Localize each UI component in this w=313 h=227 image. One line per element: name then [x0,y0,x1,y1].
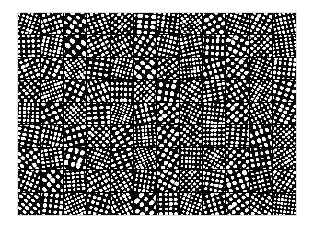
filter-tile [273,148,296,170]
filter-tile [111,58,134,80]
filter-tile [273,35,296,57]
filter-tile [41,170,64,192]
filter-tile [87,13,110,35]
filter-tile-canvas [111,103,133,124]
filter-tile-canvas [203,103,225,124]
filter-tile [226,148,249,170]
filter-tile-canvas [111,80,133,101]
filter-tile-canvas [180,13,202,34]
filter-tile-canvas [18,148,40,169]
filter-tile-canvas [250,80,272,101]
filter-tile [18,148,41,170]
filter-tile [157,35,180,57]
filter-tile [111,103,134,125]
filter-tile [226,170,249,192]
filter-tile [64,58,87,80]
filter-tile-canvas [226,80,248,101]
filter-tile-canvas [18,13,40,34]
filter-tile-canvas [18,125,40,146]
filter-tile [111,125,134,147]
filter-tile [41,193,64,215]
filter-tile [41,125,64,147]
filter-tile-canvas [41,80,63,101]
filter-bank-montage [18,13,296,215]
filter-tile [226,103,249,125]
filter-tile [134,148,157,170]
filter-tile [203,35,226,57]
filter-tile [180,125,203,147]
filter-tile-canvas [111,58,133,79]
filter-tile-canvas [180,193,202,215]
filter-tile [273,125,296,147]
filter-tile [250,35,273,57]
filter-tile-canvas [134,103,156,124]
filter-tile [111,148,134,170]
filter-tile-canvas [250,58,272,79]
filter-tile [226,125,249,147]
filter-tile-canvas [157,103,179,124]
filter-tile-canvas [18,80,40,101]
filter-tile [64,125,87,147]
filter-tile-canvas [41,58,63,79]
filter-tile [41,103,64,125]
filter-tile [273,103,296,125]
filter-tile [41,35,64,57]
filter-tile [180,13,203,35]
filter-tile [226,58,249,80]
filter-tile-canvas [226,58,248,79]
filter-tile [180,170,203,192]
filter-tile-canvas [273,58,296,79]
filter-tile-canvas [64,148,86,169]
filter-tile [134,170,157,192]
filter-tile-canvas [64,125,86,146]
filter-tile [273,13,296,35]
filter-tile-canvas [87,80,109,101]
filter-tile-canvas [157,193,179,215]
filter-tile-canvas [273,193,296,215]
filter-tile [134,193,157,215]
filter-tile [203,80,226,102]
filter-tile [134,13,157,35]
filter-tile-canvas [250,13,272,34]
filter-tile-canvas [273,148,296,169]
filter-tile [64,170,87,192]
filter-tile-canvas [111,193,133,215]
filter-tile-canvas [226,125,248,146]
filter-tile [203,170,226,192]
filter-tile-canvas [41,170,63,191]
filter-tile [18,125,41,147]
filter-tile-canvas [134,170,156,191]
filter-tile [180,58,203,80]
filter-tile [64,80,87,102]
filter-tile [226,80,249,102]
filter-tile-canvas [64,103,86,124]
filter-tile-canvas [111,13,133,34]
filter-tile-canvas [41,103,63,124]
filter-tile [41,80,64,102]
filter-tile-canvas [180,80,202,101]
filter-tile-canvas [18,58,40,79]
filter-tile [250,13,273,35]
filter-tile-canvas [64,58,86,79]
filter-tile [87,148,110,170]
filter-tile-canvas [111,35,133,56]
filter-tile [226,193,249,215]
filter-tile [134,80,157,102]
filter-tile-canvas [273,80,296,101]
filter-tile-canvas [87,58,109,79]
filter-tile [203,103,226,125]
filter-tile-canvas [64,13,86,34]
filter-tile-canvas [87,103,109,124]
filter-tile-canvas [226,193,248,215]
filter-tile-canvas [134,148,156,169]
filter-tile [18,35,41,57]
filter-tile-canvas [157,58,179,79]
filter-tile [87,170,110,192]
filter-tile-canvas [64,170,86,191]
filter-tile [157,80,180,102]
filter-tile-canvas [203,125,225,146]
filter-tile-canvas [87,13,109,34]
filter-tile-canvas [18,193,40,215]
filter-tile-canvas [41,35,63,56]
filter-tile-canvas [134,58,156,79]
